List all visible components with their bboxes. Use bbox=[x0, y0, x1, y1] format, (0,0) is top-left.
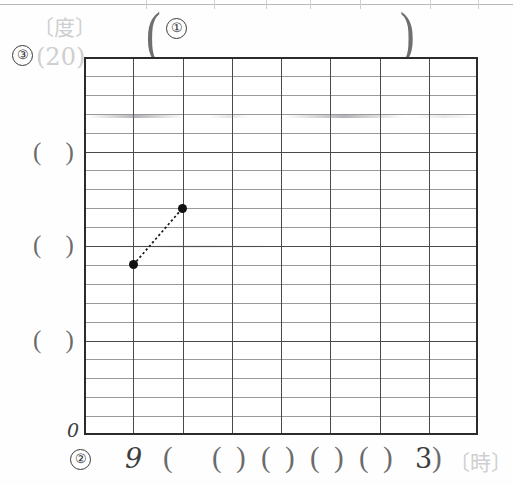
y-axis-unit-label: 〔度〕 bbox=[33, 11, 96, 41]
y-axis-zero-label: 0 bbox=[67, 421, 79, 440]
scan-artifact-tick bbox=[478, 0, 479, 9]
y-axis-top-value: (20) bbox=[36, 43, 85, 71]
scan-artifact-tick bbox=[360, 0, 361, 9]
answer-marker-2: ② bbox=[70, 449, 91, 470]
x-axis-unit-label: 〔時〕 bbox=[449, 446, 512, 476]
graph-plot-area[interactable] bbox=[84, 57, 478, 435]
data-point[interactable] bbox=[178, 204, 187, 213]
y-axis-blank-label-1[interactable]: ( ) bbox=[33, 139, 83, 164]
scan-artifact-line bbox=[0, 4, 513, 5]
scan-artifact-tick bbox=[266, 0, 267, 9]
scan-artifact-tick bbox=[310, 0, 311, 9]
y-axis-blank-label-3[interactable]: ( ) bbox=[33, 327, 83, 352]
answer-marker-1: ① bbox=[166, 18, 187, 39]
answer-marker-3: ③ bbox=[12, 45, 33, 66]
worksheet-page: ( ① ) 〔度〕 ③ (20) ( ) ( ) ( ) 0 bbox=[0, 0, 513, 485]
scan-artifact-tick bbox=[214, 0, 215, 9]
x-axis-end-label: 3 bbox=[415, 445, 432, 472]
data-series-line bbox=[84, 57, 478, 435]
scan-artifact-tick bbox=[430, 0, 431, 9]
y-axis-blank-label-2[interactable]: ( ) bbox=[33, 232, 83, 257]
x-axis-start-label: 9 bbox=[125, 445, 142, 472]
